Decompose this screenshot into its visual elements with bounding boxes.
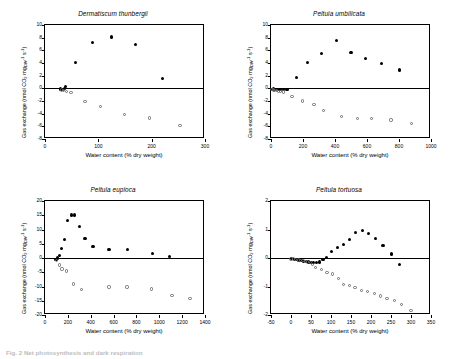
y-tick-label: 6 [265,46,268,52]
y-tick-label: 15 [36,211,42,217]
data-point [65,90,68,93]
chart-panel-peltula-umbilicata: Peltula umbilicata02004006008001000-8-6-… [226,2,452,178]
data-point [337,277,340,280]
x-tick [205,139,206,142]
y-tick-label: 0 [265,254,268,260]
x-axis-title: Water content (% dry weight) [85,328,162,334]
x-tick-label: -50 [267,319,274,325]
x-tick-label: 250 [387,319,395,325]
y-tick-label: 20 [36,197,42,203]
data-point [107,285,110,288]
plot-area: 02004006008001000 [270,24,430,138]
y-tick-label: -1 [264,283,268,289]
y-tick-label: 8 [39,34,42,40]
x-tick [91,315,92,318]
data-point [348,284,351,287]
x-tick-label: 1000 [154,319,165,325]
y-tick-label: 4 [39,59,42,65]
x-tick-label: 300 [407,319,415,325]
x-tick [371,315,372,318]
chart-title: Dermatiscum thunbergii [0,10,226,17]
data-point [148,116,151,119]
x-tick-label: 0 [270,143,273,149]
data-point [123,113,126,116]
data-point [72,282,75,285]
x-tick [291,315,292,318]
chart-title: Peltula tortuosa [226,186,452,193]
y-axis-title: Gas exchange (nmol CO2 mgDW-1 s-1) [20,47,28,138]
data-point [342,283,345,286]
y-tick [268,315,271,316]
data-point [312,103,315,106]
x-tick [411,315,412,318]
plot-area: 0200400600800100012001400 [44,200,204,314]
x-tick-label: 50 [308,319,314,325]
y-axis-title: Gas exchange (nmol CO2 mgDW-1 s-1) [246,223,254,314]
y-tick-label: -4 [264,110,268,116]
y-tick-label: 2 [265,72,268,78]
x-tick [271,315,272,318]
data-point [356,117,359,120]
chart-title: Peltula euploca [0,186,226,193]
chart-panel-peltula-tortuosa: Peltula tortuosa-50050100150200250300350… [226,178,452,354]
x-axis-title: Water content (% dry weight) [85,152,162,158]
x-axis-title: Water content (% dry weight) [311,152,388,158]
series-dark-respiration [271,25,429,137]
x-tick-label: 400 [331,143,339,149]
data-point [353,286,356,289]
x-tick-label: 0 [290,319,293,325]
y-tick [42,315,45,316]
x-tick [136,315,137,318]
data-point [83,100,86,103]
x-tick [311,315,312,318]
data-point [69,91,72,94]
data-point [325,271,328,274]
y-tick-label: -6 [38,122,42,128]
x-axis: 0200400600800100012001400 [45,315,205,316]
x-tick-label: 200 [147,143,155,149]
chart-panel-dermatiscum-thunbergii: Dermatiscum thunbergii0100200300-8-6-4-2… [0,2,226,178]
data-point [188,297,191,300]
data-point [80,288,83,291]
data-point [400,303,403,306]
data-point [60,267,63,270]
series-dark-respiration [271,201,429,313]
data-point [389,118,392,121]
y-tick-label: -6 [264,122,268,128]
data-point [99,105,102,108]
x-tick-label: 200 [367,319,375,325]
x-tick-label: 800 [132,319,140,325]
x-tick [431,315,432,318]
x-tick [335,139,336,142]
y-tick-label: 0 [39,84,42,90]
data-point [410,122,413,125]
data-point [379,294,382,297]
y-tick-label: -2 [264,97,268,103]
x-tick-label: 200 [299,143,307,149]
x-tick-label: 600 [109,319,117,325]
x-tick [351,315,352,318]
y-tick-label: 0 [39,254,42,260]
y-tick [42,139,45,140]
chart-title: Peltula umbilicata [226,10,452,17]
data-point [58,263,61,266]
data-point [320,268,323,271]
y-tick-label: 8 [265,34,268,40]
y-axis-title: Gas exchange (nmol CO2 mgDW-1 s-1) [20,223,28,314]
data-point [409,309,412,312]
data-point [385,297,388,300]
x-tick [114,315,115,318]
data-point [125,285,128,288]
y-tick-label: -5 [38,268,42,274]
x-tick-label: 0 [44,319,47,325]
x-tick-label: 350 [427,319,435,325]
y-tick-label: -4 [38,110,42,116]
x-tick-label: 0 [44,143,47,149]
y-tick-label: -20 [35,311,42,317]
y-tick-label: -15 [35,297,42,303]
x-tick-label: 800 [395,143,403,149]
x-tick [205,315,206,318]
y-tick-label: 10 [262,21,268,27]
y-tick-label: 2 [265,197,268,203]
x-tick [152,139,153,142]
